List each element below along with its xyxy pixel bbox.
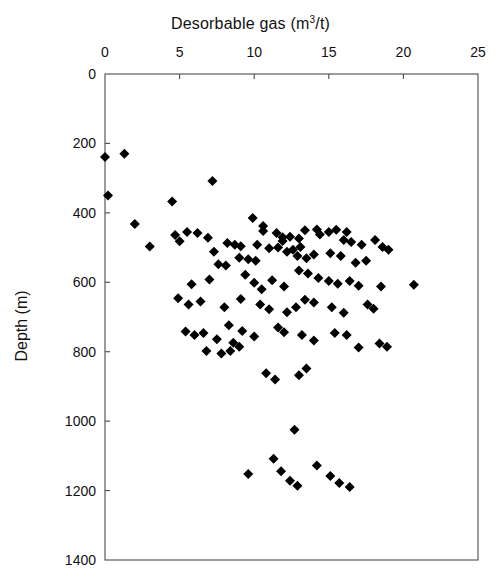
data-point	[252, 240, 262, 250]
data-point	[267, 275, 277, 285]
data-point	[324, 227, 334, 237]
data-point	[243, 254, 253, 264]
data-point	[221, 261, 231, 271]
data-point	[354, 343, 364, 353]
data-point	[285, 476, 295, 486]
data-point	[345, 482, 355, 492]
data-point	[351, 258, 361, 268]
plot-frame	[105, 74, 478, 560]
data-point	[234, 253, 244, 263]
data-point	[203, 233, 213, 243]
data-point	[292, 481, 302, 491]
data-point	[376, 281, 386, 291]
data-point	[193, 228, 203, 238]
data-point	[130, 219, 140, 229]
data-point	[294, 370, 304, 380]
data-point	[204, 275, 214, 285]
data-point	[198, 328, 208, 338]
data-point	[243, 469, 253, 479]
data-point	[213, 259, 223, 269]
data-point	[237, 326, 247, 336]
data-point	[334, 478, 344, 488]
data-point	[309, 297, 319, 307]
data-point	[312, 461, 322, 471]
data-point	[336, 251, 346, 261]
data-point-group	[100, 149, 419, 492]
data-point	[222, 238, 232, 248]
data-point	[187, 279, 197, 289]
data-point	[270, 374, 280, 384]
data-point	[173, 293, 183, 303]
data-point	[249, 331, 259, 341]
data-point	[251, 256, 261, 266]
data-point	[279, 281, 289, 291]
data-point	[342, 227, 352, 237]
data-point	[181, 327, 191, 337]
data-point	[207, 176, 217, 186]
data-point	[297, 330, 307, 340]
data-point	[240, 270, 250, 280]
data-point	[248, 213, 258, 223]
data-point	[291, 302, 301, 312]
data-point	[195, 296, 205, 306]
data-point	[209, 247, 219, 257]
data-point	[354, 281, 364, 291]
data-point	[236, 294, 246, 304]
data-point	[216, 348, 226, 358]
data-point	[269, 454, 279, 464]
data-point	[325, 471, 335, 481]
data-point	[303, 269, 313, 279]
data-point	[249, 278, 259, 288]
data-point	[294, 265, 304, 275]
data-point	[345, 276, 355, 286]
data-point	[219, 302, 229, 312]
data-point	[225, 346, 235, 356]
data-point	[167, 196, 177, 206]
data-point	[201, 346, 211, 356]
data-point	[264, 243, 274, 253]
data-point	[300, 295, 310, 305]
data-point	[145, 242, 155, 252]
data-point	[289, 425, 299, 435]
data-point	[333, 279, 343, 289]
data-point	[339, 308, 349, 318]
data-point	[294, 234, 304, 244]
data-point	[301, 363, 311, 373]
data-point	[255, 300, 265, 310]
data-point	[342, 330, 352, 340]
data-point	[182, 227, 192, 237]
plot-canvas	[0, 0, 501, 585]
data-point	[184, 300, 194, 310]
scatter-plot-figure: Desorbable gas (m3/t) Depth (m) 05101520…	[0, 0, 501, 585]
data-point	[313, 273, 323, 283]
data-point	[264, 304, 274, 314]
data-point	[212, 334, 222, 344]
data-point	[261, 368, 271, 378]
data-point	[330, 328, 340, 338]
data-point	[409, 280, 419, 290]
data-point	[339, 235, 349, 245]
data-point	[300, 225, 310, 235]
data-point	[309, 336, 319, 346]
data-point	[119, 149, 129, 159]
data-point	[100, 152, 110, 162]
data-point	[327, 302, 337, 312]
data-point	[257, 284, 267, 294]
data-point	[276, 466, 286, 476]
data-point	[190, 330, 200, 340]
data-point	[324, 276, 334, 286]
data-point	[325, 248, 335, 258]
data-point	[370, 235, 380, 245]
data-point	[282, 307, 292, 317]
data-point	[224, 320, 234, 330]
data-point	[331, 225, 341, 235]
data-point	[357, 240, 367, 250]
data-point	[361, 256, 371, 266]
data-point	[346, 237, 356, 247]
